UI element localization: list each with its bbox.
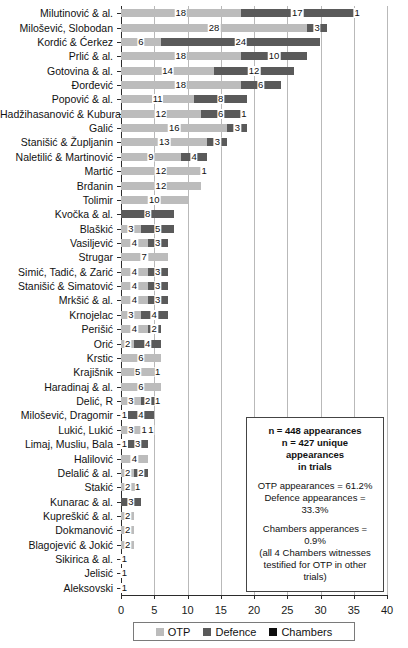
- category-label: Halilović: [0, 453, 117, 465]
- stacked-bar-chart: 0510152025303540 n = 448 appearances n =…: [0, 0, 408, 648]
- bar-value-label: 9: [147, 152, 154, 162]
- category-label: Blagojević & Jokić: [0, 539, 117, 551]
- bar-value-label: 1: [121, 554, 128, 564]
- bar-value-label: 12: [155, 109, 168, 119]
- bar-value-label: 6: [137, 382, 144, 392]
- bar-value-label: 1: [154, 367, 161, 377]
- legend-item-otp: OTP: [156, 626, 191, 638]
- bar-value-label: 1: [353, 8, 360, 18]
- bar-value-label: 1: [121, 568, 128, 578]
- category-label: Stakić: [0, 481, 117, 493]
- bar-value-label: 3: [314, 23, 321, 33]
- x-tick: [387, 595, 388, 599]
- chart-row: Milutinović & al.18171: [0, 6, 408, 20]
- category-label: Sikirica & al.: [0, 553, 117, 565]
- chart-row: Hadžihasanović & Kubura1261: [0, 107, 408, 121]
- bar-value-label: 3: [127, 224, 134, 234]
- bar-value-label: 1: [121, 583, 128, 593]
- category-label: Dokmanović: [0, 524, 117, 536]
- bar-value-label: 4: [131, 324, 138, 334]
- bar-value-label: 2: [124, 540, 131, 550]
- category-label: Krstic: [0, 352, 117, 364]
- category-label: Popović & al.: [0, 93, 117, 105]
- category-label: Galić: [0, 122, 117, 134]
- bar-value-label: 1: [154, 396, 161, 406]
- bar-value-label: 4: [151, 310, 158, 320]
- chart-row: Milošević, Dragomir14: [0, 408, 408, 422]
- x-tick-label: 40: [381, 604, 393, 616]
- bar-value-label: 13: [158, 137, 171, 147]
- bar-value-label: 3: [127, 310, 134, 320]
- x-tick: [154, 595, 155, 599]
- bar-value-label: 2: [124, 525, 131, 535]
- chart-row: Perišić42: [0, 322, 408, 336]
- x-tick-label: 0: [118, 604, 124, 616]
- x-tick-label: 10: [181, 604, 193, 616]
- bar-value-label: 6: [137, 353, 144, 363]
- category-label: Naletilić & Martinović: [0, 151, 117, 163]
- x-tick-label: 30: [314, 604, 326, 616]
- chart-row: Delalić & al.22: [0, 466, 408, 480]
- bar-value-label: 10: [268, 51, 281, 61]
- chart-row: Tolimir10: [0, 193, 408, 207]
- bar-value-label: 4: [131, 267, 138, 277]
- bar-value-label: 7: [141, 252, 148, 262]
- chart-row: Delić, R321: [0, 394, 408, 408]
- bar-value-label: 2: [124, 339, 131, 349]
- chart-row: Đorđević186: [0, 78, 408, 92]
- legend-swatch-def-icon: [203, 628, 211, 636]
- x-tick-label: 35: [348, 604, 360, 616]
- x-tick-label: 25: [281, 604, 293, 616]
- x-tick-label: 15: [215, 604, 227, 616]
- bar-value-label: 2: [144, 396, 151, 406]
- bar-value-label: 6: [137, 37, 144, 47]
- category-label: Tolimir: [0, 194, 117, 206]
- category-label: Krajišnik: [0, 366, 117, 378]
- x-tick-label: 20: [248, 604, 260, 616]
- bar-value-label: 1: [240, 109, 247, 119]
- chart-row: Aleksovski1: [0, 581, 408, 595]
- category-label: Stanišić & Župljanin: [0, 136, 117, 148]
- chart-row: Lukić, Lukić311: [0, 423, 408, 437]
- bar-value-label: 4: [131, 454, 138, 464]
- bar-value-label: 18: [175, 51, 188, 61]
- bar-value-label: 3: [154, 295, 161, 305]
- category-label: Krnojelac: [0, 309, 117, 321]
- category-label: Vasiljević: [0, 237, 117, 249]
- category-label: Brđanin: [0, 180, 117, 192]
- chart-row: Stanišić & Župljanin133: [0, 135, 408, 149]
- bar-value-label: 6: [257, 80, 264, 90]
- chart-row: Stanišić & Simatović43: [0, 279, 408, 293]
- bar-value-label: 3: [127, 425, 134, 435]
- chart-row: Kordić & Ćerkez624: [0, 35, 408, 49]
- bar-value-label: 8: [144, 209, 151, 219]
- category-label: Limaj, Musliu, Bala: [0, 438, 117, 450]
- chart-row: Orić24: [0, 336, 408, 350]
- bar-value-label: 2: [124, 468, 131, 478]
- category-label: Milošević, Dragomir: [0, 409, 117, 421]
- bar-value-label: 11: [152, 94, 164, 104]
- x-tick-label: 5: [151, 604, 157, 616]
- category-label: Jelisić: [0, 567, 117, 579]
- bar-value-label: 2: [124, 511, 131, 521]
- category-label: Milošević, Slobodan: [0, 22, 117, 34]
- category-label: Kordić & Ćerkez: [0, 36, 117, 48]
- bar-value-label: 3: [154, 238, 161, 248]
- bar-value-label: 2: [151, 324, 158, 334]
- x-tick: [287, 595, 288, 599]
- chart-row: Vasiljević43: [0, 236, 408, 250]
- bar-value-label: 12: [155, 181, 168, 191]
- bar-value-label: 18: [175, 8, 188, 18]
- category-label: Simić, Tadić, & Zarić: [0, 266, 117, 278]
- bar-value-label: 3: [214, 137, 221, 147]
- x-tick: [321, 595, 322, 599]
- category-label: Delalić & al.: [0, 467, 117, 479]
- chart-legend: OTPDefenceChambers: [133, 622, 355, 641]
- category-label: Gotovina & al.: [0, 65, 117, 77]
- legend-label: Chambers: [281, 626, 332, 638]
- bar-value-label: 2: [137, 468, 144, 478]
- chart-row: Martić121: [0, 164, 408, 178]
- chart-row: Haradinaj & al.6: [0, 380, 408, 394]
- chart-row: Krstic6: [0, 351, 408, 365]
- bar-value-label: 12: [248, 66, 261, 76]
